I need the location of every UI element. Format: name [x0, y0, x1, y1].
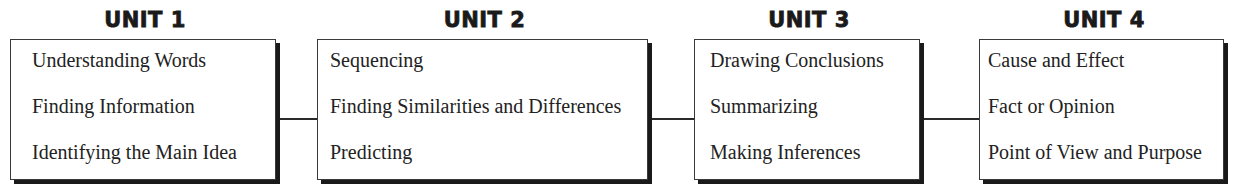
unit-3-skill-2: Summarizing [695, 95, 919, 118]
unit-2-box: Sequencing Finding Similarities and Diff… [317, 39, 648, 180]
unit-4-title: UNIT 4 [979, 6, 1229, 34]
unit-2-skill-3: Predicting [318, 141, 647, 164]
unit-1-skill-3: Identifying the Main Idea [11, 141, 275, 164]
connector-2-3 [652, 118, 694, 120]
unit-4-skill-1: Cause and Effect [980, 49, 1223, 72]
unit-1-box: Understanding Words Finding Information … [10, 39, 276, 180]
unit-4-skill-3: Point of View and Purpose [980, 141, 1223, 164]
connector-1-2 [280, 118, 317, 120]
unit-1-skill-2: Finding Information [11, 95, 275, 118]
unit-4-skill-2: Fact or Opinion [980, 95, 1223, 118]
unit-3-box: Drawing Conclusions Summarizing Making I… [694, 39, 920, 180]
connector-3-4 [924, 118, 979, 120]
unit-1-skill-1: Understanding Words [11, 49, 275, 72]
unit-2-title: UNIT 2 [317, 6, 652, 34]
unit-4-box: Cause and Effect Fact or Opinion Point o… [979, 39, 1224, 180]
unit-2-skill-2: Finding Similarities and Differences [318, 95, 647, 118]
unit-3-skill-1: Drawing Conclusions [695, 49, 919, 72]
unit-3-title: UNIT 3 [694, 6, 924, 34]
unit-2-skill-1: Sequencing [318, 49, 647, 72]
unit-3-skill-3: Making Inferences [695, 141, 919, 164]
unit-1-title: UNIT 1 [10, 6, 280, 34]
